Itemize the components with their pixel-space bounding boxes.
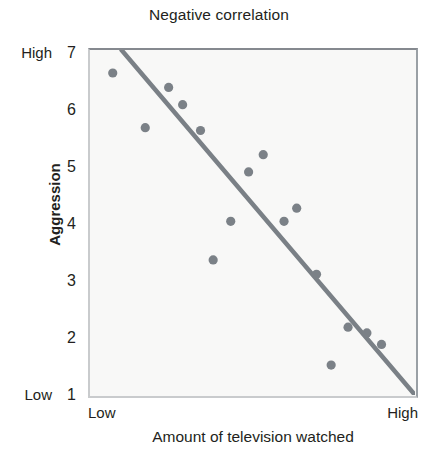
y-tick-label-3: 3 <box>58 273 76 289</box>
plot-area <box>88 48 418 398</box>
data-point <box>343 323 352 332</box>
data-point <box>196 126 205 135</box>
data-point <box>362 328 371 337</box>
x-axis-low-label: Low <box>88 404 116 421</box>
scatter-plot-figure: Negative correlation High Low 7 6 5 4 3 … <box>0 0 438 464</box>
y-axis-title: Aggression <box>46 145 63 265</box>
y-axis-high-label: High <box>6 45 52 60</box>
data-point <box>377 340 386 349</box>
data-point <box>164 83 173 92</box>
data-point <box>279 217 288 226</box>
data-point <box>327 361 336 370</box>
data-point <box>312 270 321 279</box>
data-point <box>244 167 253 176</box>
trend-line <box>122 50 415 395</box>
data-point <box>209 255 218 264</box>
y-tick-label-2: 2 <box>58 330 76 346</box>
y-tick-label-1: 1 <box>58 387 76 403</box>
data-point <box>141 123 150 132</box>
data-point <box>292 204 301 213</box>
scatter-svg <box>90 50 415 395</box>
data-point <box>226 217 235 226</box>
y-axis-low-label: Low <box>6 387 52 402</box>
data-point <box>259 150 268 159</box>
data-point <box>178 100 187 109</box>
y-tick-label-7: 7 <box>58 45 76 61</box>
x-axis-title: Amount of television watched <box>88 428 418 446</box>
chart-title: Negative correlation <box>0 6 438 24</box>
y-tick-label-6: 6 <box>58 102 76 118</box>
plot-inner <box>90 50 416 396</box>
data-point <box>108 68 117 77</box>
x-axis-high-label: High <box>368 404 418 421</box>
